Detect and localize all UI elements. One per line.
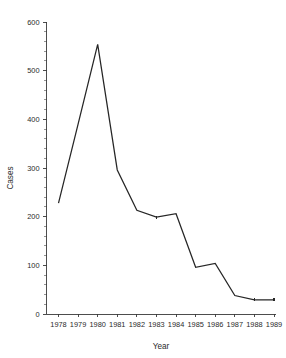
line-chart-plot: 0100200300400500600 19781979198019811982… bbox=[0, 0, 286, 358]
y-axis-tick-label: 300 bbox=[27, 164, 39, 173]
y-axis-tick-label: 600 bbox=[27, 18, 39, 27]
y-axis-tick-label: 500 bbox=[27, 66, 39, 75]
chart-figure: 0100200300400500600 19781979198019811982… bbox=[0, 0, 286, 358]
x-axis-tick-label: 1985 bbox=[187, 320, 203, 329]
y-axis-tick-label: 200 bbox=[27, 212, 39, 221]
y-axis-tick-label: 100 bbox=[27, 261, 39, 270]
x-axis-tick-label: 1983 bbox=[148, 320, 164, 329]
y-axis-title: Cases bbox=[6, 166, 15, 189]
x-axis-tick-label: 1987 bbox=[227, 320, 243, 329]
x-axis-title: Year bbox=[153, 342, 170, 351]
x-axis-tick-label: 1989 bbox=[266, 320, 282, 329]
x-axis-tick-label: 1979 bbox=[70, 320, 86, 329]
x-axis-tick-label: 1982 bbox=[129, 320, 145, 329]
x-axis-tick-label: 1984 bbox=[168, 320, 184, 329]
x-axis-tick-label: 1980 bbox=[89, 320, 105, 329]
x-axis-tick-label: 1978 bbox=[50, 320, 66, 329]
x-axis-tick-label: 1986 bbox=[207, 320, 223, 329]
y-axis-tick-label: 400 bbox=[27, 115, 39, 124]
y-axis-tick-label: 0 bbox=[35, 310, 39, 319]
x-axis-tick-label: 1981 bbox=[109, 320, 125, 329]
x-axis-tick-label: 1988 bbox=[246, 320, 262, 329]
chart-background bbox=[0, 0, 286, 358]
